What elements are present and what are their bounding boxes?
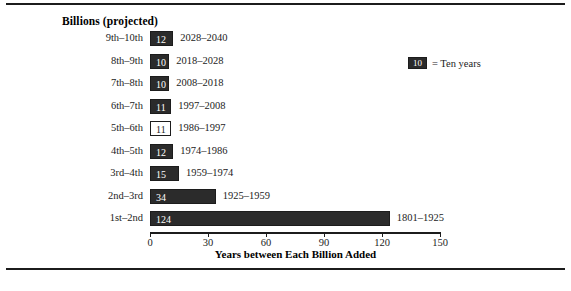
x-tick-label: 150 [420, 237, 460, 248]
year-range-label: 2018–2028 [176, 55, 223, 66]
x-tick-label: 90 [304, 237, 344, 248]
bar-row: 7th–8th102008–2018 [150, 74, 571, 97]
bar-row: 5th–6th111986–1997 [150, 119, 571, 142]
chart-title: Billions (projected) [62, 15, 158, 27]
year-range-label: 1925–1959 [223, 190, 270, 201]
chart-figure: Billions (projected) 10 = Ten years 9th–… [0, 0, 571, 291]
category-label: 2nd–3rd [108, 190, 143, 201]
bar: 12 [150, 31, 173, 46]
bar: 34 [150, 189, 216, 204]
year-range-label: 1986–1997 [178, 122, 225, 133]
category-label: 3rd–4th [110, 167, 143, 178]
category-label: 9th–10th [106, 32, 143, 43]
year-range-label: 1974–1986 [180, 145, 227, 156]
year-range-label: 1801–1925 [397, 212, 444, 223]
bottom-rule [6, 268, 565, 270]
bar-row: 9th–10th122028–2040 [150, 29, 571, 52]
bar-value-label: 12 [156, 146, 166, 159]
bar: 124 [150, 211, 390, 226]
year-range-label: 1997–2008 [178, 100, 225, 111]
bar-row: 6th–7th111997–2008 [150, 97, 571, 120]
bar-row: 2nd–3rd341925–1959 [150, 187, 571, 210]
x-tick-label: 0 [130, 237, 170, 248]
plot-area: 9th–10th122028–20408th–9th102018–20287th… [150, 29, 440, 232]
bar: 11 [150, 121, 171, 136]
bar: 11 [150, 99, 171, 114]
bar-value-label: 124 [156, 213, 171, 226]
category-label: 5th–6th [111, 122, 143, 133]
bar-row: 8th–9th102018–2028 [150, 52, 571, 75]
category-label: 7th–8th [111, 77, 143, 88]
category-label: 6th–7th [111, 100, 143, 111]
category-label: 8th–9th [111, 55, 143, 66]
year-range-label: 2028–2040 [180, 32, 227, 43]
x-tick-label: 30 [188, 237, 228, 248]
bar-value-label: 10 [156, 78, 166, 91]
bar-row: 3rd–4th151959–1974 [150, 164, 571, 187]
year-range-label: 2008–2018 [176, 77, 223, 88]
top-rule [6, 3, 565, 5]
year-range-label: 1959–1974 [186, 167, 233, 178]
bar-value-label: 11 [156, 101, 166, 114]
bar-value-label: 34 [156, 191, 166, 204]
bar-value-label: 11 [156, 123, 166, 136]
bar-value-label: 12 [156, 33, 166, 46]
bar: 15 [150, 166, 179, 181]
bar: 10 [150, 54, 169, 69]
bar-row: 4th–5th121974–1986 [150, 142, 571, 165]
bar: 12 [150, 144, 173, 159]
x-tick-label: 120 [362, 237, 402, 248]
category-label: 4th–5th [111, 145, 143, 156]
x-tick-label: 60 [246, 237, 286, 248]
bar-value-label: 15 [156, 168, 166, 181]
x-axis-line [150, 232, 441, 234]
bar: 10 [150, 76, 169, 91]
bar-value-label: 10 [156, 56, 166, 69]
x-axis-title: Years between Each Billion Added [150, 248, 441, 260]
category-label: 1st–2nd [110, 212, 143, 223]
bar-row: 1st–2nd1241801–1925 [150, 209, 571, 232]
